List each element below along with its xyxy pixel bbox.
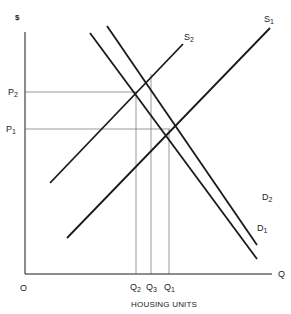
demand-curve-d2 (107, 26, 257, 245)
origin-label: O (20, 283, 27, 293)
quantity-label-base: Q (130, 282, 137, 292)
curve-label-d1: D1 (257, 223, 267, 236)
price-label-sub: 1 (12, 128, 16, 135)
curve-label-sub: 2 (190, 36, 194, 43)
price-label-p2: P2 (8, 87, 18, 100)
curve-label-s2: S2 (184, 32, 194, 45)
supply-curve-s2 (50, 44, 183, 183)
curve-label-s1: S1 (264, 14, 274, 27)
quantity-label-q1: Q1 (164, 282, 175, 295)
quantity-label-sub: 1 (171, 286, 175, 293)
price-label-p1: P1 (6, 124, 16, 137)
price-label-sub: 2 (14, 91, 18, 98)
curve-label-sub: 1 (264, 227, 268, 234)
curve-label-sub: 1 (270, 18, 274, 25)
x-axis-label: Q (278, 269, 285, 279)
x-axis-title: HOUSING UNITS (131, 300, 197, 309)
quantity-label-base: Q (164, 282, 171, 292)
quantity-label-q3: Q3 (146, 282, 157, 295)
quantity-label-q2: Q2 (130, 282, 141, 295)
curve-label-sub: 2 (269, 196, 273, 203)
quantity-label-sub: 2 (137, 286, 141, 293)
quantity-label-base: Q (146, 282, 153, 292)
quantity-label-sub: 3 (153, 286, 157, 293)
supply-demand-diagram (0, 0, 291, 314)
curve-label-d2: D2 (262, 192, 272, 205)
y-axis-label: $ (15, 13, 19, 23)
